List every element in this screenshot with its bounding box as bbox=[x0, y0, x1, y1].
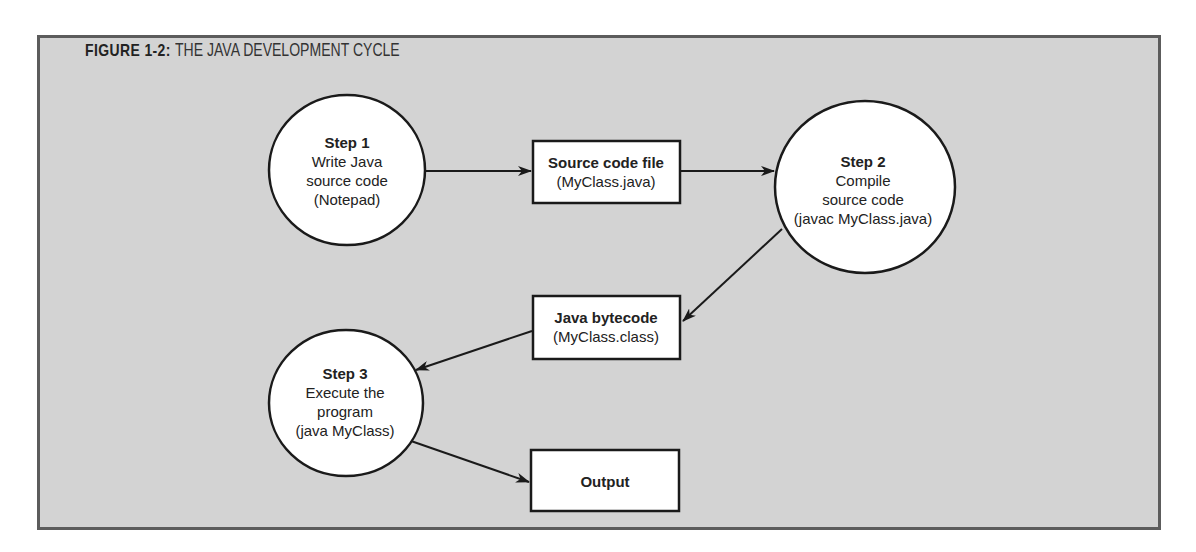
step2-label: Step 2 Compile source code (javac MyClas… bbox=[794, 152, 932, 228]
step1-line-2: source code bbox=[306, 171, 388, 190]
step3-line-2: program bbox=[295, 402, 394, 421]
bytecode-title: Java bytecode bbox=[553, 308, 659, 327]
step2-line-3: (javac MyClass.java) bbox=[794, 209, 932, 228]
step1-line-3: (Notepad) bbox=[306, 190, 388, 209]
step3-line-3: (java MyClass) bbox=[295, 421, 394, 440]
arrow-step2-to-bytecode bbox=[683, 229, 782, 321]
step2-line-2: source code bbox=[794, 190, 932, 209]
step1-line-1: Write Java bbox=[306, 152, 388, 171]
bytecode-subtitle: (MyClass.class) bbox=[553, 327, 659, 346]
output-label: Output bbox=[580, 472, 629, 491]
step2-line-1: Compile bbox=[794, 171, 932, 190]
source-file-title: Source code file bbox=[548, 153, 664, 172]
output-title: Output bbox=[580, 472, 629, 491]
arrow-bytecode-to-step3 bbox=[416, 331, 532, 370]
step1-title: Step 1 bbox=[306, 133, 388, 152]
step3-line-1: Execute the bbox=[295, 383, 394, 402]
step3-label: Step 3 Execute the program (java MyClass… bbox=[295, 364, 394, 440]
step2-title: Step 2 bbox=[794, 152, 932, 171]
step3-title: Step 3 bbox=[295, 364, 394, 383]
bytecode-label: Java bytecode (MyClass.class) bbox=[553, 308, 659, 346]
diagram-canvas bbox=[0, 0, 1196, 552]
step1-label: Step 1 Write Java source code (Notepad) bbox=[306, 133, 388, 209]
source-file-label: Source code file (MyClass.java) bbox=[548, 153, 664, 191]
arrow-step3-to-output bbox=[411, 441, 529, 482]
source-file-subtitle: (MyClass.java) bbox=[548, 172, 664, 191]
